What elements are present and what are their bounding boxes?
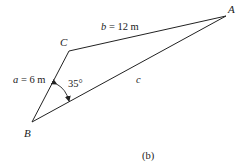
figure-caption: (b)	[142, 150, 155, 162]
angle-label: 35°	[68, 78, 83, 89]
side-b	[69, 16, 226, 51]
side-label-a: a = 6 m	[13, 74, 45, 85]
side-label-b: b = 12 m	[101, 21, 139, 32]
vertex-label-a: A	[227, 3, 235, 15]
vertex-label-b: B	[24, 127, 31, 139]
triangle-diagram: A B C a = 6 m b = 12 m c 35° (b)	[0, 0, 244, 164]
side-label-c: c	[136, 74, 141, 85]
vertex-label-c: C	[60, 36, 68, 48]
